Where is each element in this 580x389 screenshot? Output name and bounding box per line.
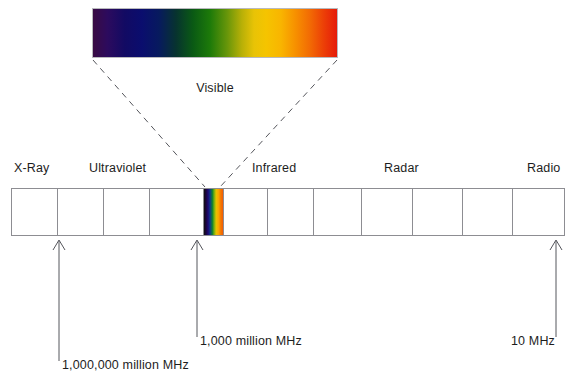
band-label-infrared: Infrared	[252, 161, 296, 175]
figure-canvas: Visible X-Ray Ultraviolet Infrared Radar…	[0, 0, 580, 389]
scale-cell-6	[224, 189, 268, 235]
freq-label-1000-million-mhz: 1,000 million MHz	[200, 334, 302, 348]
scale-cell-7	[268, 189, 314, 235]
scale-cell-11	[463, 189, 513, 235]
scale-cell-12	[513, 189, 566, 235]
scale-cell-2	[58, 189, 104, 235]
scale-cell-visible	[204, 189, 224, 235]
callout-arrow-radio	[550, 240, 562, 337]
visible-spectrum-swatch	[92, 8, 338, 58]
spectrum-scale-bar	[11, 188, 565, 236]
band-label-ultraviolet: Ultraviolet	[89, 161, 146, 175]
band-label-radar: Radar	[384, 161, 419, 175]
scale-cell-9	[362, 189, 413, 235]
visible-spectrum-gradient	[93, 9, 337, 57]
scale-cell-4	[150, 189, 204, 235]
visible-caption: Visible	[0, 81, 430, 95]
scale-cell-1	[12, 189, 58, 235]
band-label-radio: Radio	[527, 161, 560, 175]
freq-label-1000000-million-mhz: 1,000,000 million MHz	[62, 358, 189, 372]
freq-label-10-mhz: 10 MHz	[511, 334, 555, 348]
scale-cell-3	[104, 189, 150, 235]
scale-cell-8	[314, 189, 362, 235]
callout-arrow-visible	[191, 240, 203, 337]
scale-cell-10	[413, 189, 463, 235]
callout-arrow-x-ray	[53, 240, 65, 361]
band-label-x-ray: X-Ray	[14, 161, 49, 175]
